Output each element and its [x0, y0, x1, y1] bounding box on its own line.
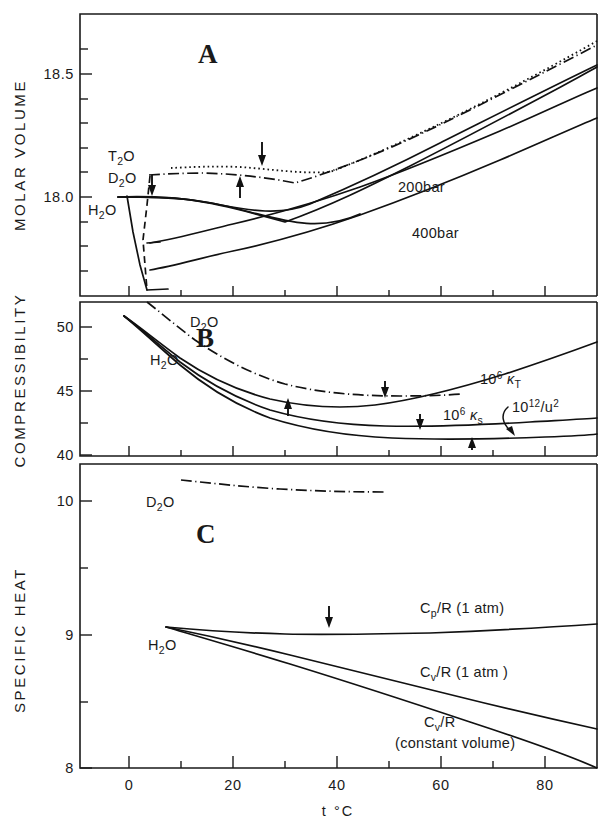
chart-svg: 18.5 18.0 A: [0, 0, 614, 826]
panel-c-arrow-cp: [325, 606, 333, 628]
curve-c-d2o-cp: [181, 480, 385, 492]
panel-a-frame: [80, 14, 597, 296]
panel-c-label-cv-const-line2: (constant volume): [395, 735, 515, 751]
panel-b: 50 45 40 B D2O H2O: [11, 293, 597, 468]
xtick-60: 60: [432, 777, 449, 793]
panel-c-label-cv-1atm: Cv/R (1 atm ): [420, 664, 508, 683]
figure-container: 18.5 18.0 A: [0, 0, 614, 826]
panel-b-arrow-ks: [416, 414, 424, 430]
panel-c-label-cp: Cp/R (1 atm): [420, 600, 504, 619]
curve-h2o-1atm-smooth: [118, 65, 597, 211]
panel-b-label-u2: 1012/u2: [512, 398, 559, 415]
panel-b-ytick-45: 45: [57, 383, 74, 399]
xtick-20: 20: [224, 777, 241, 793]
panel-c-yticks: [80, 501, 92, 768]
panel-b-label-kappa-t: 106 κT: [480, 370, 522, 390]
panel-a-xticks: [129, 286, 545, 296]
xtick-40: 40: [328, 777, 345, 793]
panel-a-ytick-18-5: 18.5: [43, 66, 74, 82]
panel-b-label-h2o: H2O: [150, 352, 179, 371]
panel-a: 18.5 18.0 A: [11, 14, 597, 296]
xtick-0: 0: [125, 777, 134, 793]
panel-c-ytick-10: 10: [57, 493, 74, 509]
panel-b-xticks: [129, 446, 545, 456]
panel-c-xticks: [129, 756, 545, 768]
foot-400bar: [147, 289, 168, 290]
curve-c-h2o-cp: [166, 624, 597, 634]
panel-b-ylabel: COMPRESSIBILITY: [11, 293, 28, 468]
xtick-80: 80: [536, 777, 553, 793]
panel-c-label-cv-const: Cv/R: [424, 714, 455, 733]
panel-a-yticks: [80, 49, 92, 271]
curve-b-u2: [124, 316, 597, 439]
panel-a-label-t2o: T2O: [108, 148, 135, 167]
panel-c-label-h2o: H2O: [148, 637, 177, 656]
curve-h2o-lowT-solid: [127, 196, 147, 290]
curve-c-h2o-cv-const: [166, 627, 597, 768]
x-axis-labels: 0 20 40 60 80: [125, 777, 554, 793]
panel-b-ytick-40: 40: [57, 447, 74, 463]
panel-a-arrow-d2o: [236, 176, 244, 198]
curve-t2o-1atm: [171, 41, 597, 172]
panel-c-ytick-8: 8: [65, 760, 74, 776]
x-axis-title: t °C: [322, 803, 354, 819]
foot-200bar: [147, 242, 160, 243]
panel-b-label-kappa-s: 106 κs: [443, 406, 483, 426]
panel-c-ylabel: SPECIFIC HEAT: [11, 567, 28, 713]
curve-d2o-lowT-dashed: [143, 176, 150, 290]
panel-b-label-d2o: D2O: [190, 314, 219, 333]
panel-b-yticks: [80, 327, 92, 455]
panel-b-ytick-50: 50: [57, 319, 74, 335]
panel-a-ytick-18-0: 18.0: [43, 189, 74, 205]
panel-c: 10 9 8 C D2O H2O Cp/R (1 atm) Cv/R (1 at…: [11, 464, 597, 776]
panel-a-label-400bar: 400bar: [412, 225, 459, 241]
panel-a-label-d2o: D2O: [108, 170, 137, 189]
panel-c-label-d2o: D2O: [146, 494, 175, 513]
curve-400bar: [150, 118, 597, 270]
panel-c-letter: C: [196, 519, 216, 549]
panel-a-arrow-t2o: [258, 142, 266, 166]
panel-a-letter: A: [198, 39, 218, 69]
curve-200bar: [150, 88, 597, 243]
panel-a-ylabel: MOLAR VOLUME: [11, 79, 28, 231]
panel-c-ytick-9: 9: [65, 627, 74, 643]
curve-c-h2o-cv-1atm: [166, 627, 597, 729]
panel-a-label-h2o: H2O: [88, 202, 117, 221]
panel-a-label-200bar: 200bar: [398, 179, 445, 195]
